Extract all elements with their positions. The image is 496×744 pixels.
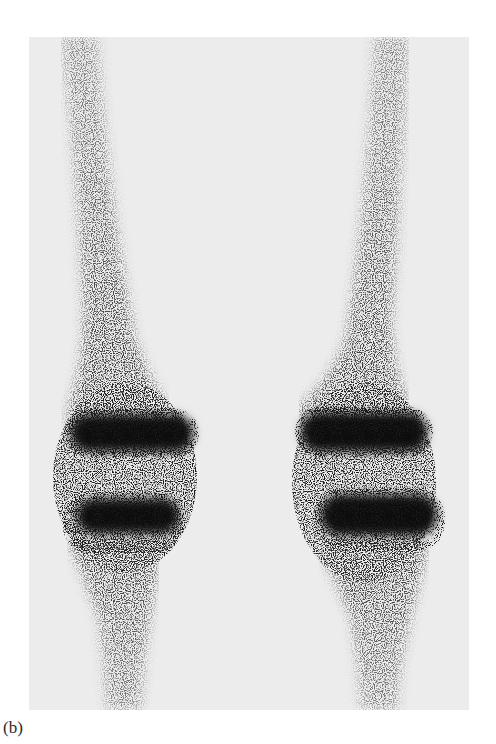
scintigraphy-figure: (b) (0, 0, 496, 744)
left-knee-upper-band (65, 409, 199, 457)
right-knee-upper-band (295, 407, 433, 457)
left-knee (53, 37, 199, 710)
left-knee-lower-band (63, 493, 181, 553)
right-knee (292, 37, 445, 710)
panel-label: (b) (3, 719, 23, 736)
right-knee-lower-band (315, 489, 445, 551)
bone-scan-graphic (29, 37, 469, 710)
scan-image-panel (29, 37, 469, 710)
